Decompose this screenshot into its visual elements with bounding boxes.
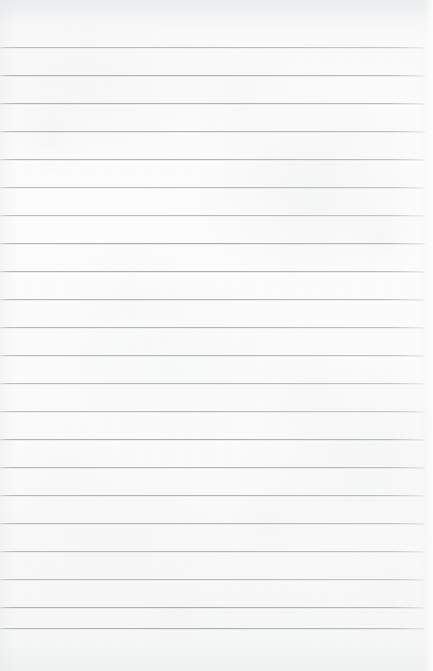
writing-area[interactable] bbox=[0, 47, 425, 628]
rule-line bbox=[0, 628, 425, 629]
lined-paper-sheet bbox=[0, 0, 433, 671]
